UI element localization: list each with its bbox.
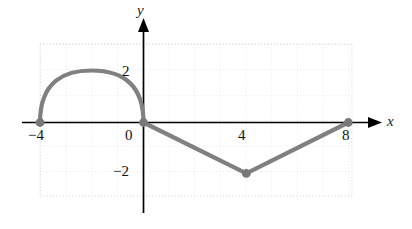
- y-axis-label: y: [137, 3, 144, 18]
- x-axis-arrow-icon: [368, 117, 382, 128]
- grid: [40, 44, 352, 196]
- graph-figure: y x 2 −2 −4 0 4 8: [0, 0, 412, 229]
- x-tick-label-neg4: −4: [28, 128, 44, 143]
- data-point: [344, 118, 353, 127]
- data-point: [36, 118, 45, 127]
- x-tick-label-8: 8: [342, 128, 350, 143]
- y-tick-label-neg2: −2: [113, 164, 129, 179]
- y-axis-arrow-icon: [138, 18, 149, 32]
- x-tick-label-4: 4: [238, 128, 246, 143]
- data-point: [139, 118, 148, 127]
- coordinate-plane: [0, 0, 412, 229]
- data-point: [242, 169, 251, 178]
- x-tick-label-0: 0: [125, 128, 133, 143]
- grid-fill: [40, 44, 352, 196]
- y-tick-label-2: 2: [122, 64, 130, 79]
- x-axis-label: x: [387, 114, 394, 129]
